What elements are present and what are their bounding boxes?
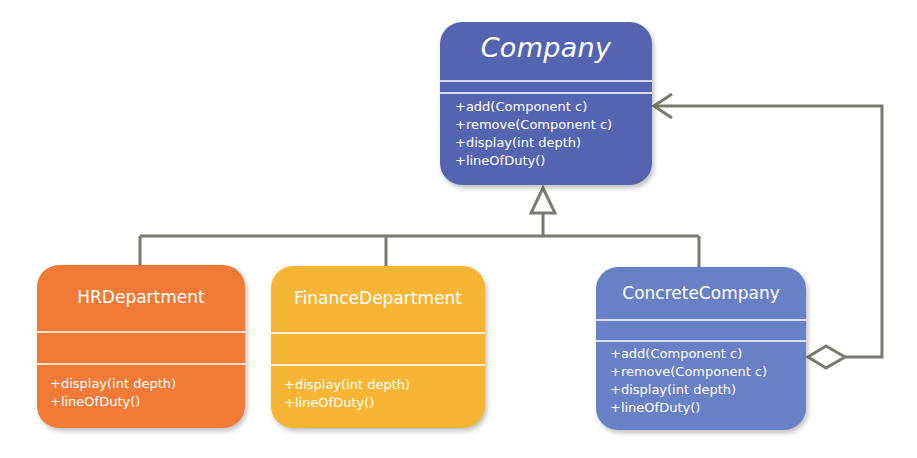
method: +display(int depth) — [610, 381, 800, 399]
methods-divider — [596, 340, 806, 342]
class-concrete-company: ConcreteCompany +add(Component c) +remov… — [596, 267, 806, 430]
class-name: HRDepartment — [37, 287, 245, 307]
method-list: +add(Component c) +remove(Component c) +… — [610, 345, 800, 417]
attributes-divider — [37, 331, 245, 333]
class-name: ConcreteCompany — [596, 283, 806, 303]
method: +display(int depth) — [284, 376, 479, 394]
method-list: +display(int depth) +lineOfDuty() — [50, 375, 239, 411]
attributes-divider — [271, 332, 485, 334]
method-list: +add(Component c) +remove(Component c) +… — [455, 98, 646, 170]
generalization-triangle-icon — [531, 188, 555, 213]
methods-divider — [37, 363, 245, 365]
attributes-divider — [596, 319, 806, 321]
method: +display(int depth) — [455, 134, 646, 152]
methods-divider — [271, 364, 485, 366]
class-hr-department: HRDepartment +display(int depth) +lineOf… — [37, 265, 245, 428]
method: +lineOfDuty() — [284, 394, 479, 412]
method: +lineOfDuty() — [50, 393, 239, 411]
class-name: FinanceDepartment — [271, 288, 485, 308]
method: +add(Component c) — [610, 345, 800, 363]
class-name: Company — [440, 32, 652, 63]
method: +lineOfDuty() — [455, 152, 646, 170]
attributes-divider — [440, 80, 652, 82]
class-company: Company +add(Component c) +remove(Compon… — [440, 22, 652, 185]
method: +add(Component c) — [455, 98, 646, 116]
class-finance-department: FinanceDepartment +display(int depth) +l… — [271, 266, 485, 428]
method-list: +display(int depth) +lineOfDuty() — [284, 376, 479, 412]
method: +remove(Component c) — [455, 116, 646, 134]
method: +lineOfDuty() — [610, 399, 800, 417]
aggregation-diamond-icon — [808, 346, 845, 368]
method: +display(int depth) — [50, 375, 239, 393]
method: +remove(Component c) — [610, 363, 800, 381]
methods-divider — [440, 92, 652, 94]
